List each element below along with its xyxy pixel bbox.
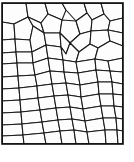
- tessellation-cell: [116, 118, 123, 131]
- tessellation-cell: [56, 107, 72, 120]
- tessellation-cell: [2, 76, 19, 89]
- tessellation-cell: [44, 131, 62, 144]
- tessellation-cell: [48, 58, 64, 72]
- tessellation-cell: [2, 22, 15, 40]
- tessellation-cell: [50, 71, 66, 84]
- tessellation-cell: [108, 58, 123, 72]
- tessellation-cell: [99, 94, 114, 106]
- tessellation-cell: [117, 130, 123, 144]
- tessellation-cell: [112, 82, 123, 95]
- tessellation-cell: [60, 130, 76, 144]
- tessellation-cell: [2, 100, 21, 113]
- tessellation-cell: [2, 124, 23, 136]
- tessellation-cell: [2, 39, 16, 53]
- cell-layer: [2, 3, 123, 144]
- tessellation-cell: [23, 133, 46, 144]
- tessellation-cell: [103, 118, 117, 130]
- tessellation-cell: [2, 63, 18, 77]
- tessellation-cell: [17, 63, 35, 76]
- tessellation-cell: [58, 119, 74, 131]
- tessellation-cell: [15, 39, 32, 52]
- tessellation-cell: [2, 112, 22, 125]
- tessellation-cell: [16, 52, 33, 63]
- tessellation-cell: [2, 135, 24, 144]
- tessellation-cell: [2, 88, 20, 101]
- tessellation-cell: [98, 82, 113, 94]
- tessellation-cell: [2, 52, 17, 64]
- tessellation-cell: [114, 106, 123, 119]
- tessellation-cell: [105, 130, 118, 144]
- tessellation-cell: [54, 95, 70, 108]
- tessellation-cell: [87, 130, 106, 144]
- polygonal-tessellation-diagram: [0, 0, 134, 162]
- figure-root: [0, 0, 134, 162]
- tessellation-cell: [52, 83, 68, 96]
- tessellation-cell: [113, 94, 123, 107]
